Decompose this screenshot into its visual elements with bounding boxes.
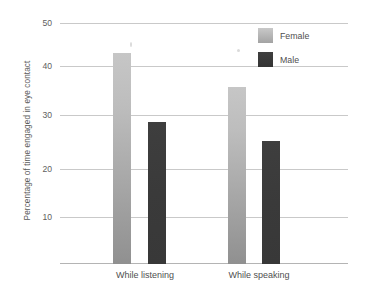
legend-swatch-male-icon <box>258 52 273 67</box>
gridline-10 <box>60 217 348 218</box>
category-label-while-speaking: While speaking <box>194 270 324 280</box>
y-tick-label-30: 30 <box>12 111 52 120</box>
category-label-while-listening: While listening <box>80 270 210 280</box>
y-tick-label-40: 40 <box>12 62 52 71</box>
y-tick-label-10: 10 <box>12 213 52 222</box>
gridline-20 <box>60 169 348 170</box>
bar-while-listening-female <box>113 53 131 264</box>
legend-item-male: Male <box>258 52 309 67</box>
gridline-50 <box>60 23 348 24</box>
gridline-baseline <box>60 263 348 264</box>
bar-chart: Percentage of time engaged in eye contac… <box>0 0 366 296</box>
legend-item-female: Female <box>258 28 309 43</box>
gridline-30 <box>60 115 348 116</box>
legend-label-male: Male <box>280 55 299 65</box>
legend: Female Male <box>258 28 309 76</box>
bar-while-speaking-male <box>262 141 280 264</box>
bar-while-listening-male <box>148 122 166 264</box>
bar-while-speaking-female <box>228 87 246 264</box>
legend-label-female: Female <box>280 31 309 41</box>
legend-swatch-female-icon <box>258 28 273 43</box>
scan-speckle <box>237 49 240 52</box>
y-tick-label-20: 20 <box>12 165 52 174</box>
y-tick-label-50: 50 <box>12 19 52 28</box>
scan-speckle <box>130 42 132 47</box>
